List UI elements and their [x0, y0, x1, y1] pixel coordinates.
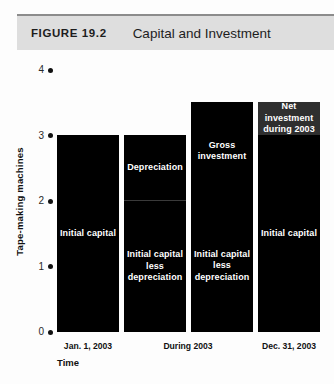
- y-tick-label-2: 2: [30, 195, 44, 207]
- bar-segment-initial-capital-less-depreciation[interactable]: Initial capital less depreciation: [124, 200, 186, 332]
- chart-plot-area: Tape-making machines 4 3 2 1 0 Initial c…: [0, 0, 334, 384]
- bar-segment-label: Gross investment: [191, 140, 253, 163]
- y-tick-label-4: 4: [30, 64, 44, 76]
- bar-segment-label: Depreciation: [124, 162, 186, 174]
- y-tick-dot-4: [48, 68, 53, 73]
- y-tick-label-0: 0: [30, 326, 44, 338]
- bar-segment-label: Initial capital: [258, 228, 320, 240]
- x-axis-label-dec-31-2003: Dec. 31, 2003: [258, 341, 320, 351]
- y-tick-label-1: 1: [30, 261, 44, 273]
- y-tick-dot-3: [48, 133, 53, 138]
- bar-segment-gross-investment[interactable]: Gross investment: [191, 102, 253, 200]
- bar-segment-label: Initial capital: [57, 228, 119, 240]
- bar-segment-initial-capital[interactable]: Initial capital: [57, 135, 119, 333]
- x-axis-label-during-2003: During 2003: [157, 341, 219, 351]
- bar-segment-initial-capital[interactable]: Initial capital: [258, 135, 320, 333]
- y-tick-dot-1: [48, 264, 53, 269]
- y-axis-title: Tape-making machines: [14, 117, 25, 287]
- bar-group-4: Net investment during 2003 Initial capit…: [258, 102, 320, 332]
- bar-group-2: Depreciation Initial capital less deprec…: [124, 135, 186, 333]
- bar-segment-label: Initial capital less depreciation: [124, 249, 186, 284]
- bar-group-1: Initial capital: [57, 135, 119, 333]
- y-tick-dot-0: [48, 330, 53, 335]
- y-tick-dot-2: [48, 199, 53, 204]
- x-axis-title: Time: [57, 357, 79, 368]
- bar-segment-initial-capital-less-depreciation[interactable]: Initial capital less depreciation: [191, 200, 253, 332]
- bar-segment-label: Net investment during 2003: [258, 101, 320, 136]
- figure-container: FIGURE 19.2 Capital and Investment Tape-…: [0, 0, 334, 384]
- bar-segment-net-investment[interactable]: Net investment during 2003: [258, 102, 320, 135]
- bar-segment-depreciation[interactable]: Depreciation: [124, 135, 186, 201]
- x-axis-label-jan-1-2003: Jan. 1, 2003: [57, 341, 119, 351]
- bar-segment-label: Initial capital less depreciation: [191, 249, 253, 284]
- bar-group-3: Gross investment Initial capital less de…: [191, 102, 253, 332]
- y-tick-label-3: 3: [30, 130, 44, 142]
